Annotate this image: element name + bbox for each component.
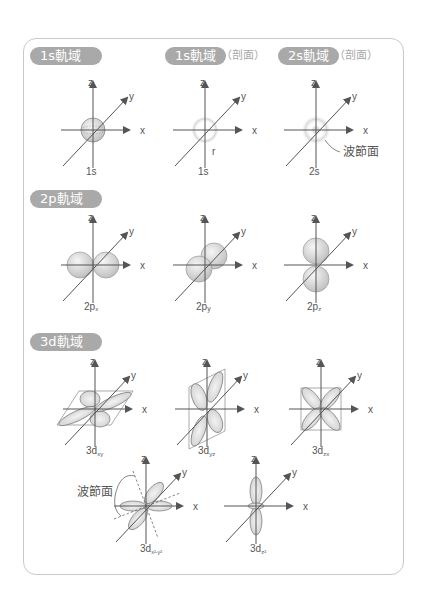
svg-text:z: z [316, 356, 321, 367]
svg-text:x: x [142, 404, 147, 415]
figure-3dz2-orbital [224, 458, 292, 544]
svg-text:x: x [254, 404, 259, 415]
caption-2px: 2px [84, 301, 98, 312]
figure-3dxy-orbital [57, 361, 133, 447]
svg-text:y: y [241, 226, 246, 237]
node-label-3d: 波節面 [77, 484, 113, 499]
svg-text:x: x [140, 260, 145, 271]
svg-text:y: y [241, 91, 246, 102]
svg-text:z: z [90, 356, 95, 367]
svg-text:x: x [363, 125, 368, 136]
svg-text:x: x [303, 501, 308, 512]
caption-3dzx: 3dzx [312, 445, 329, 457]
caption-3dxy: 3dxy [86, 445, 103, 457]
svg-text:y: y [292, 467, 297, 478]
svg-text:z: z [202, 356, 207, 367]
axis-labels: zyx zyx zyx zyx zyx zyx zyx zyx zyx zyx … [88, 77, 373, 512]
svg-text:y: y [352, 226, 357, 237]
svg-text:z: z [311, 77, 316, 88]
svg-text:x: x [252, 260, 257, 271]
svg-text:x: x [368, 404, 373, 415]
svg-text:z: z [88, 77, 93, 88]
figure-3dx2y2-orbital [114, 458, 182, 544]
figure-2s-cross-section [284, 82, 352, 168]
svg-text:z: z [251, 453, 256, 464]
figure-2py-orbital [173, 217, 241, 303]
svg-text:y: y [243, 370, 248, 381]
svg-text:x: x [252, 125, 257, 136]
figure-1s-cross-section [173, 82, 241, 168]
figure-2px-orbital [61, 217, 129, 303]
caption-3dx2-y2: 3dx²-y² [140, 543, 162, 555]
svg-text:y: y [129, 91, 134, 102]
svg-text:y: y [352, 91, 357, 102]
svg-text:z: z [200, 77, 205, 88]
figure-3dyz-orbital [175, 361, 243, 449]
svg-text:x: x [363, 260, 368, 271]
svg-text:z: z [311, 212, 316, 223]
caption-1s: 1s [86, 166, 97, 177]
svg-text:x: x [140, 125, 145, 136]
figure-2pz-orbital [284, 217, 352, 303]
radius-label: r [212, 146, 216, 157]
node-label-2s: 波節面 [343, 144, 379, 159]
svg-text:z: z [200, 212, 205, 223]
svg-text:x: x [193, 501, 198, 512]
caption-1s-section: 1s [198, 166, 209, 177]
figure-1s-orbital [61, 82, 129, 168]
caption-3dyz: 3dyz [198, 445, 215, 457]
svg-text:y: y [129, 226, 134, 237]
svg-text:z: z [141, 453, 146, 464]
caption-2s-section: 2s [309, 166, 320, 177]
figure-3dzx-orbital [289, 361, 357, 447]
svg-text:y: y [182, 467, 187, 478]
caption-2py: 2py [196, 301, 211, 313]
svg-text:z: z [88, 212, 93, 223]
orbital-figures: zyx zyx zyx zyx zyx zyx zyx zyx zyx zyx … [0, 0, 425, 603]
caption-2pz: 2pz [307, 301, 321, 312]
node-pointer-line [325, 140, 340, 152]
svg-text:y: y [131, 370, 136, 381]
svg-text:y: y [357, 370, 362, 381]
caption-3dz2: 3dz² [250, 543, 266, 555]
